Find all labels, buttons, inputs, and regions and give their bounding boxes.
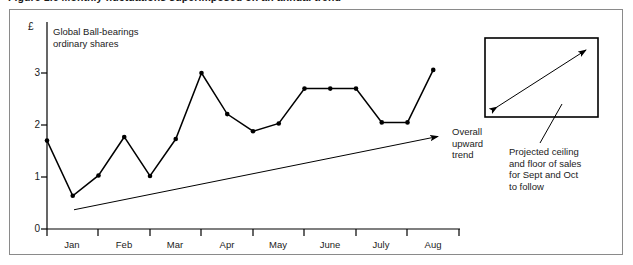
y-axis-currency-symbol: £ bbox=[28, 21, 34, 32]
y-tick-label-2: 2 bbox=[26, 119, 40, 130]
projection-box bbox=[485, 38, 598, 117]
x-tick-label-may: May bbox=[256, 239, 300, 250]
overall-trend-arrow bbox=[74, 136, 438, 209]
overall-trend-label: Overall upward trend bbox=[452, 126, 483, 161]
data-point bbox=[70, 193, 75, 198]
x-tick-label-mar: Mar bbox=[153, 239, 197, 250]
x-tick-label-july: July bbox=[359, 239, 403, 250]
data-point bbox=[328, 86, 333, 91]
x-axis-ticks bbox=[47, 229, 459, 236]
data-point bbox=[379, 120, 384, 125]
y-tick-label-0: 0 bbox=[26, 223, 40, 234]
data-series-line bbox=[47, 70, 433, 196]
data-point bbox=[96, 173, 101, 178]
data-point bbox=[431, 68, 436, 73]
y-axis-ticks bbox=[41, 73, 47, 229]
data-point-markers bbox=[45, 68, 436, 198]
data-point bbox=[173, 137, 178, 142]
x-tick-label-june: June bbox=[308, 239, 352, 250]
y-tick-label-3: 3 bbox=[26, 67, 40, 78]
data-point bbox=[302, 86, 307, 91]
projection-note-label: Projected ceiling and floor of sales for… bbox=[509, 146, 581, 192]
figure-root: Figure 1.6 Monthly fluctuations superimp… bbox=[0, 0, 633, 265]
data-point bbox=[148, 174, 153, 179]
x-tick-label-feb: Feb bbox=[102, 239, 146, 250]
data-point bbox=[405, 120, 410, 125]
y-tick-label-1: 1 bbox=[26, 171, 40, 182]
data-point bbox=[276, 121, 281, 126]
data-point bbox=[122, 135, 127, 140]
data-point bbox=[199, 71, 204, 76]
data-point bbox=[45, 138, 50, 143]
data-point bbox=[354, 86, 359, 91]
x-tick-label-aug: Aug bbox=[411, 239, 455, 250]
x-tick-label-jan: Jan bbox=[50, 239, 94, 250]
data-point bbox=[251, 129, 256, 134]
series-legend-label: Global Ball-bearings ordinary shares bbox=[53, 26, 139, 49]
data-point bbox=[225, 112, 230, 117]
x-tick-label-apr: Apr bbox=[205, 239, 249, 250]
